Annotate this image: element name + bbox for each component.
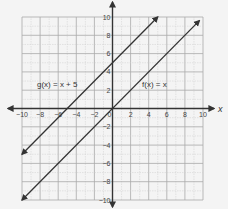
x-tick-label: 4 [147, 111, 151, 118]
label-g: g(x) = x + 5 [37, 80, 78, 89]
x-tick-label: −10 [16, 111, 28, 118]
x-tick-label: 8 [183, 111, 187, 118]
y-tick-label: 2 [107, 87, 111, 94]
x-axis-label: x [217, 104, 223, 114]
y-tick-label: 8 [107, 32, 111, 39]
y-tick-label: 4 [107, 68, 111, 75]
line-f [22, 21, 199, 200]
x-tick-label: 10 [199, 111, 207, 118]
y-tick-label: −6 [103, 160, 111, 167]
label-f: f(x) = x [142, 80, 167, 89]
y-tick-label: 10 [103, 14, 111, 21]
x-tick-label: −4 [72, 111, 80, 118]
coordinate-plane: −10−8−6−4−20246810108642−2−4−6−8−10 g(x)… [0, 0, 228, 209]
x-tick-label: 6 [165, 111, 169, 118]
x-tick-label: −8 [36, 111, 44, 118]
y-tick-label: −2 [103, 123, 111, 130]
x-tick-label: 2 [129, 111, 133, 118]
y-tick-label: 6 [107, 50, 111, 57]
y-tick-label: −8 [103, 178, 111, 185]
y-tick-label: −10 [99, 197, 111, 204]
y-tick-label: −4 [103, 142, 111, 149]
axes [8, 2, 214, 207]
x-tick-label: −2 [90, 111, 98, 118]
